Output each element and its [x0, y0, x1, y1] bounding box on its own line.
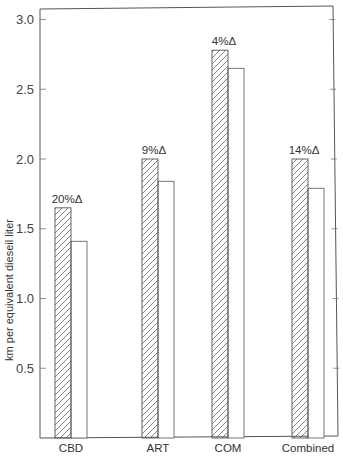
x-category-label: COM	[215, 442, 242, 454]
percent-change-label: 9%Δ	[142, 144, 167, 156]
y-tick-label: 1.0	[16, 291, 34, 306]
bar-group-com: 4%Δ	[212, 35, 244, 438]
y-tick-label: 2.0	[16, 152, 34, 167]
y-tick-label: 0.5	[16, 361, 34, 376]
percent-change-label: 14%Δ	[289, 144, 320, 156]
bar-plain	[158, 181, 174, 438]
x-category-label: CBD	[59, 442, 83, 454]
bar-group-cbd: 20%Δ	[52, 193, 87, 438]
percent-change-label: 4%Δ	[212, 35, 237, 47]
x-axis: CBDARTCOMCombined	[59, 442, 334, 454]
bar-hatched	[212, 50, 228, 438]
percent-change-label: 20%Δ	[52, 193, 83, 205]
bar-plain	[308, 188, 324, 438]
bar-chart: 0.51.01.52.02.53.0 20%Δ9%Δ4%Δ14%Δ CBDART…	[0, 0, 343, 456]
y-axis-label: km per equivalent dieseil liter	[3, 219, 15, 361]
bar-group-art: 9%Δ	[142, 144, 174, 438]
y-tick-label: 3.0	[16, 12, 34, 27]
bars: 20%Δ9%Δ4%Δ14%Δ	[52, 35, 324, 438]
x-category-label: ART	[147, 442, 170, 454]
bar-hatched	[55, 208, 71, 438]
bar-plain	[71, 241, 87, 438]
y-tick-label: 1.5	[16, 221, 34, 236]
bar-hatched	[292, 159, 308, 438]
x-category-label: Combined	[282, 442, 334, 454]
bar-hatched	[142, 159, 158, 438]
y-tick-label: 2.5	[16, 82, 34, 97]
bar-plain	[228, 68, 244, 438]
bar-group-combined: 14%Δ	[289, 144, 324, 438]
